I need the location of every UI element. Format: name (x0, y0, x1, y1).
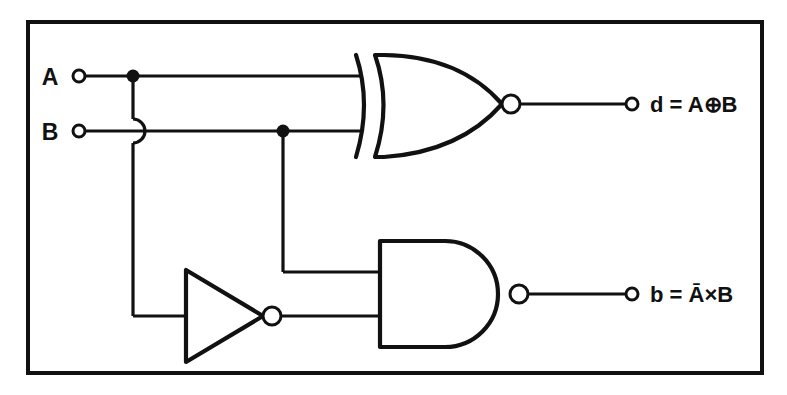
input-label-b: B (42, 119, 59, 145)
xor-gate-extra-arc (356, 55, 364, 157)
xor-gate-output-bubble (502, 95, 520, 113)
circuit-canvas: A B d = A⊕B (0, 0, 787, 395)
and-gate-output-bubble (510, 285, 528, 303)
output-terminal-d[interactable] (626, 98, 638, 110)
and-gate-body[interactable] (380, 241, 498, 347)
input-label-a: A (42, 64, 59, 90)
logic-circuit-diagram: A B d = A⊕B (0, 0, 787, 395)
output-label-d: d = A⊕B (650, 92, 737, 117)
input-terminal-a[interactable] (73, 70, 85, 82)
output-terminal-b[interactable] (626, 288, 638, 300)
junction-dot-a (127, 70, 140, 83)
junction-dot-b (277, 125, 290, 138)
input-terminal-b[interactable] (73, 125, 85, 137)
xor-gate-body[interactable] (375, 55, 502, 157)
not-gate-output-bubble (263, 307, 281, 325)
not-gate-body[interactable] (186, 270, 263, 362)
output-label-b: b = Ā×B (650, 282, 733, 307)
